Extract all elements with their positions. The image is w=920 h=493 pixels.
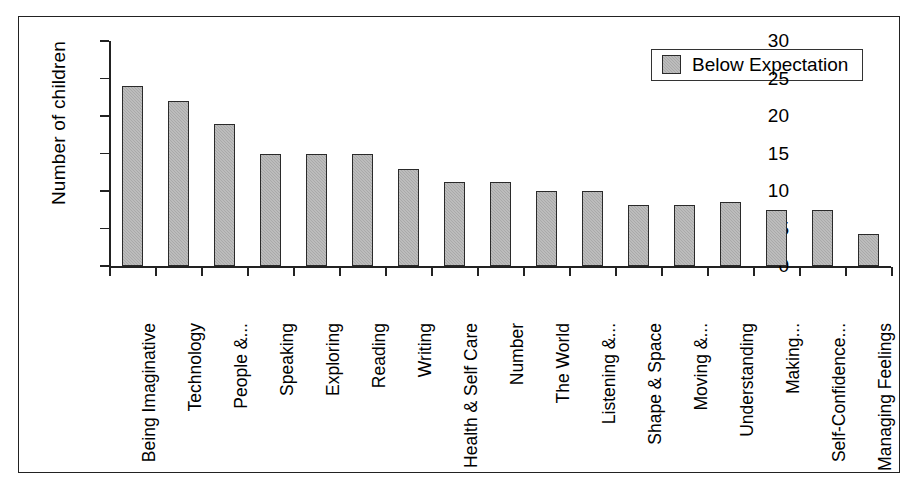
y-axis-tick (100, 115, 109, 117)
x-axis-label: Making... (783, 323, 804, 394)
y-axis-line (109, 41, 111, 267)
y-axis-tick-label: 25 (729, 69, 789, 88)
x-axis-label: Being Imaginative (139, 323, 160, 462)
bar-speaking (260, 154, 281, 267)
chart-frame: Number of children Below Expectation 051… (18, 16, 900, 473)
x-axis-label: Reading (369, 323, 390, 388)
x-axis-tick (845, 267, 847, 276)
x-axis-tick (247, 267, 249, 276)
y-axis-tick-label: 15 (729, 144, 789, 163)
bar-making (766, 210, 787, 266)
x-axis-tick (109, 267, 111, 276)
x-axis-tick (293, 267, 295, 276)
x-axis-label: Number (507, 323, 528, 385)
y-axis-tick (100, 153, 109, 155)
bar-writing (398, 169, 419, 267)
x-axis-label: Managing Feelings (875, 323, 896, 471)
bar-exploring (306, 154, 327, 267)
x-axis-label: People &... (231, 323, 252, 409)
x-axis-label: Understanding (737, 323, 758, 437)
y-axis-tick-label: 10 (729, 181, 789, 200)
bar-managing-feelings (858, 234, 879, 266)
x-axis-label: Technology (185, 323, 206, 412)
x-axis-label: Self-Confidence... (829, 323, 850, 462)
bar-people (214, 124, 235, 267)
y-axis-tick (100, 228, 109, 230)
x-axis-label: Shape & Space (645, 323, 666, 445)
x-axis-tick (477, 267, 479, 276)
bar-health-self-care (444, 182, 465, 266)
x-axis-label: Writing (415, 323, 436, 377)
y-axis-tick (100, 78, 109, 80)
y-axis-title: Number of children (48, 23, 70, 223)
bar-self-confidence (812, 210, 833, 266)
x-axis-label: Exploring (323, 323, 344, 396)
x-axis-tick (431, 267, 433, 276)
x-axis-tick (707, 267, 709, 276)
bar-shape-space (628, 205, 649, 266)
x-axis-tick (615, 267, 617, 276)
bar-understanding (720, 202, 741, 266)
y-axis-tick (100, 265, 109, 267)
x-axis-tick (339, 267, 341, 276)
x-axis-tick (385, 267, 387, 276)
bar-moving (674, 205, 695, 266)
bar-being-imaginative (122, 86, 143, 266)
x-axis-tick (201, 267, 203, 276)
bar-number (490, 182, 511, 266)
y-axis-tick-label: 20 (729, 106, 789, 125)
x-axis-label: Moving &... (691, 323, 712, 411)
x-axis-tick (569, 267, 571, 276)
x-axis-tick (155, 267, 157, 276)
y-axis-tick-label: 30 (729, 31, 789, 50)
bar-technology (168, 101, 189, 266)
x-axis-tick (661, 267, 663, 276)
y-axis-tick (100, 40, 109, 42)
plot-area: 051015202530 Being ImaginativeTechnology… (109, 41, 891, 291)
x-axis-label: Health & Self Care (461, 323, 482, 468)
x-axis-label: Listening &... (599, 323, 620, 424)
y-axis-tick (100, 190, 109, 192)
x-axis-tick (523, 267, 525, 276)
x-axis-tick (799, 267, 801, 276)
x-axis-tick (891, 267, 893, 276)
x-axis-label: The World (553, 323, 574, 403)
x-axis-label: Speaking (277, 323, 298, 396)
x-axis-tick (753, 267, 755, 276)
bar-the-world (536, 191, 557, 266)
bar-reading (352, 154, 373, 267)
bar-listening (582, 191, 603, 266)
